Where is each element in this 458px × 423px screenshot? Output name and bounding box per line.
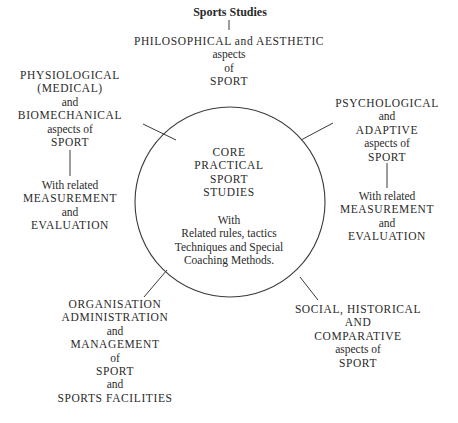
node-line: BIOMECHANICAL — [0, 109, 140, 122]
title-text: Sports Studies — [130, 6, 330, 19]
node-line: PHYSIOLOGICAL — [0, 69, 140, 82]
core-line: Techniques and Special — [0, 241, 458, 254]
node-line: COMPARATIVE — [288, 330, 428, 343]
node-line: SPORTS FACILITIES — [40, 392, 190, 405]
node-social: SOCIAL, HISTORICAL AND COMPARATIVE aspec… — [288, 303, 428, 370]
core-circle — [135, 107, 325, 297]
node-line: and — [40, 378, 190, 391]
node-line: and — [40, 325, 190, 338]
node-line: ADAPTIVE — [327, 124, 447, 137]
node-physiological: PHYSIOLOGICAL (MEDICAL) and BIOMECHANICA… — [0, 69, 140, 149]
node-line: ADMINISTRATION — [40, 311, 190, 324]
core-line: CORE — [0, 146, 458, 159]
node-line: (MEDICAL) — [0, 82, 140, 95]
core-line: SPORT — [0, 173, 458, 186]
node-line: SPORT — [288, 357, 428, 370]
core-line: Related rules, tactics — [0, 227, 458, 240]
core-line: STUDIES — [0, 186, 458, 199]
node-line: SPORT — [109, 75, 349, 88]
node-line: ORGANISATION — [40, 298, 190, 311]
node-line: aspects of — [288, 343, 428, 356]
core-line: PRACTICAL — [0, 159, 458, 172]
node-line: and — [327, 110, 447, 123]
node-line: PHILOSOPHICAL and AESTHETIC — [109, 35, 349, 48]
connector-bottom-right — [300, 277, 318, 300]
core-line: Coaching Methods. — [0, 254, 458, 267]
node-line: aspects of — [0, 123, 140, 136]
core-body: With Related rules, tactics Techniques a… — [0, 214, 458, 268]
diagram-title: Sports Studies — [130, 6, 330, 19]
node-line: of — [109, 62, 349, 75]
node-line: and — [0, 96, 140, 109]
core-line: With — [0, 214, 458, 227]
node-philosophical: PHILOSOPHICAL and AESTHETIC aspects of S… — [109, 35, 349, 89]
node-line: MANAGEMENT — [40, 338, 190, 351]
node-line: PSYCHOLOGICAL — [327, 97, 447, 110]
connector-bottom-left — [144, 270, 167, 297]
node-organisation: ORGANISATION ADMINISTRATION and MANAGEME… — [40, 298, 190, 405]
node-line: SOCIAL, HISTORICAL — [288, 303, 428, 316]
core-heading: CORE PRACTICAL SPORT STUDIES — [0, 146, 458, 200]
node-line: SPORT — [40, 365, 190, 378]
node-line: aspects — [109, 48, 349, 61]
node-line: AND — [288, 316, 428, 329]
node-line: of — [40, 352, 190, 365]
